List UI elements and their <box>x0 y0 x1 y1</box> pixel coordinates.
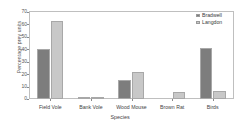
x-axis-title: Species <box>0 114 240 120</box>
y-axis-tick-mark <box>27 99 29 100</box>
bar-group <box>152 12 193 99</box>
y-axis-tick-label: 40 <box>15 47 27 52</box>
legend: BradwellLangdon <box>196 12 222 26</box>
bar-group <box>30 12 71 99</box>
y-axis-tick-label: 70 <box>15 9 27 14</box>
y-axis-tick-mark <box>27 24 29 25</box>
x-axis-tick-mark <box>132 99 133 101</box>
y-axis-tick-mark <box>27 49 29 50</box>
bar-bradwell-birds <box>200 48 213 99</box>
bar-langdon-birds <box>213 91 226 99</box>
bar-chart: Percentage prey units 010203040506070 Sp… <box>0 0 240 125</box>
y-axis-tick-label: 20 <box>15 72 27 77</box>
y-axis-tick-label: 10 <box>15 84 27 89</box>
x-axis-tick-mark <box>213 99 214 101</box>
bar-group <box>111 12 152 99</box>
bar-langdon-wood-mouse <box>132 72 145 99</box>
y-axis-tick-mark <box>27 74 29 75</box>
y-axis-tick-mark <box>27 87 29 88</box>
bar-langdon-bank-vole <box>91 97 104 99</box>
x-axis-tick-mark <box>50 99 51 101</box>
y-axis-tick-label: 60 <box>15 22 27 27</box>
x-axis-tick-mark <box>172 99 173 101</box>
y-axis-tick-mark <box>27 62 29 63</box>
bar-group <box>71 12 112 99</box>
x-axis-tick-mark <box>91 99 92 101</box>
y-axis-tick-label: 0 <box>15 96 27 101</box>
y-axis-tick-mark <box>27 37 29 38</box>
legend-item-langdon[interactable]: Langdon <box>196 19 222 26</box>
bar-langdon-field-vole <box>51 21 64 99</box>
bar-langdon-brown-rat <box>173 92 186 99</box>
legend-label: Bradwell <box>202 13 222 18</box>
bar-bradwell-wood-mouse <box>118 80 131 99</box>
legend-label: Langdon <box>202 20 222 25</box>
legend-swatch-icon <box>196 21 200 25</box>
y-axis-tick-mark <box>27 12 29 13</box>
bar-bradwell-bank-vole <box>78 97 91 99</box>
legend-item-bradwell[interactable]: Bradwell <box>196 12 222 19</box>
y-axis-tick-label: 50 <box>15 34 27 39</box>
y-axis-tick-label: 30 <box>15 59 27 64</box>
x-axis-tick-label: Birds <box>188 104 238 110</box>
bar-bradwell-field-vole <box>37 49 50 99</box>
legend-swatch-icon <box>196 14 200 18</box>
